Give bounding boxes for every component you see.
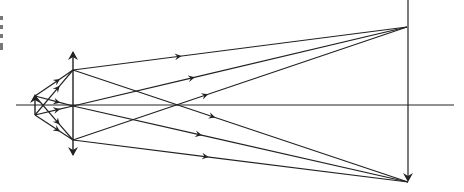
ray-object-bottom-center: [59, 106, 73, 109]
ray-object-top-lower: [35, 96, 59, 123]
refracted-ray-to-image-bottom-center: [200, 135, 408, 182]
refracted-ray-to-image-top-center: [73, 78, 193, 106]
edge-mark: [0, 34, 3, 38]
refracted-ray-to-image-bottom-upper: [214, 117, 408, 182]
refracted-ray-to-image-top-upper: [73, 56, 180, 70]
edge-mark: [0, 43, 3, 50]
edge-mark: [0, 16, 3, 20]
refracted-ray-to-image-bottom-lower: [73, 140, 207, 157]
ray-object-bottom-lower: [35, 115, 59, 131]
edge-mark: [0, 25, 3, 29]
cropped-text-fragments: [0, 16, 6, 55]
refracted-ray-to-image-top-upper: [180, 27, 407, 56]
refracted-ray-to-image-bottom-upper: [73, 70, 214, 117]
ray-diagram: [0, 0, 464, 192]
refracted-ray-to-image-top-center: [193, 27, 407, 78]
refracted-ray-to-image-top-lower: [207, 27, 407, 95]
refracted-ray-to-image-bottom-center: [73, 106, 200, 135]
refracted-ray-to-image-bottom-lower: [207, 157, 408, 182]
ray-object-top-upper: [35, 80, 59, 96]
